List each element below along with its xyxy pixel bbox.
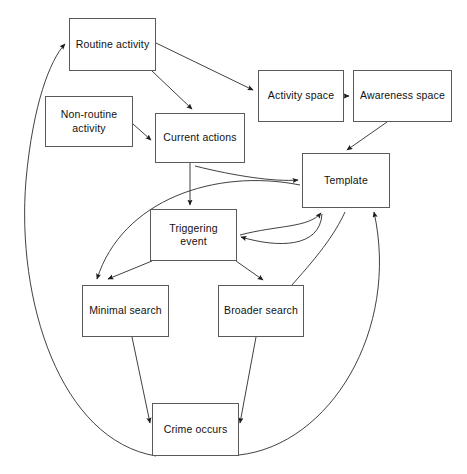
node-label-minimal_search: Minimal search <box>85 304 166 317</box>
node-routine_activity[interactable]: Routine activity <box>69 18 156 71</box>
node-label-crime_occurs: Crime occurs <box>160 423 232 436</box>
edge-broader_search-to-template <box>240 213 321 235</box>
edge-routine_activity-to-current_actions <box>152 71 192 109</box>
node-broader_search[interactable]: Broader search <box>218 285 304 337</box>
node-awareness_space[interactable]: Awareness space <box>353 70 452 122</box>
edge-template-to-broader_search <box>286 212 345 292</box>
node-label-broader_search: Broader search <box>220 304 302 317</box>
node-label-current_actions: Current actions <box>159 131 240 144</box>
node-label-non_routine: Non-routine activity <box>57 108 122 134</box>
node-label-template: Template <box>320 174 372 187</box>
node-crime_occurs[interactable]: Crime occurs <box>152 403 239 456</box>
node-current_actions[interactable]: Current actions <box>155 113 245 163</box>
edge-non_routine-to-current_actions <box>133 124 151 140</box>
node-label-awareness_space: Awareness space <box>356 89 449 102</box>
diagram-canvas: Routine activityNon-routine activityCurr… <box>0 0 467 474</box>
edge-broader_search-to-crime_occurs <box>240 337 256 423</box>
edge-current_actions-to-template <box>195 166 298 180</box>
node-activity_space[interactable]: Activity space <box>258 70 344 122</box>
edge-template-to-triggering_event <box>241 214 322 244</box>
node-label-triggering_event: Triggering event <box>151 222 236 248</box>
edge-minimal_search-to-crime_occurs <box>132 337 150 423</box>
node-minimal_search[interactable]: Minimal search <box>82 285 169 337</box>
node-label-activity_space: Activity space <box>264 89 338 102</box>
edge-awareness_space-to-template <box>347 122 387 150</box>
edge-routine_activity-to-activity_space <box>156 43 253 90</box>
node-non_routine[interactable]: Non-routine activity <box>45 96 133 147</box>
node-label-routine_activity: Routine activity <box>72 38 154 51</box>
node-template[interactable]: Template <box>302 153 390 208</box>
edge-triggering_event-to-broader_search <box>236 261 263 280</box>
node-triggering_event[interactable]: Triggering event <box>150 209 237 261</box>
edge-triggering_event-to-minimal_search <box>108 261 152 279</box>
